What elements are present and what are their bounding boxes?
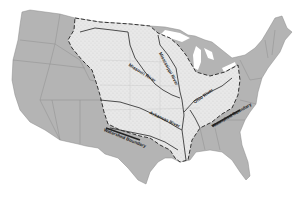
watershed-map: Missouri River Mississippi River Ohio Ri… (0, 0, 305, 198)
us-map-svg (0, 0, 305, 198)
